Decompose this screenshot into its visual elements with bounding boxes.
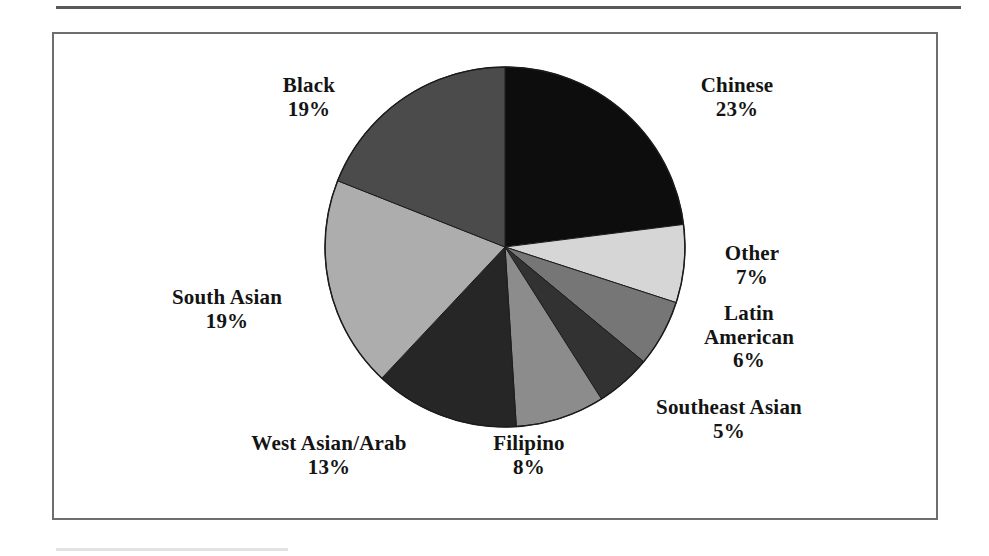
slice-name-latin-american-line2: American: [674, 326, 824, 350]
slice-percent-southeast-asian: 5%: [619, 420, 839, 444]
slice-percent-black: 19%: [239, 98, 379, 122]
scan-artifact: [56, 548, 288, 551]
pie-chart: Chinese 23% Other 7% Latin American 6% S…: [54, 34, 940, 522]
slice-name-black: Black: [283, 73, 335, 97]
slice-label-southeast-asian: Southeast Asian 5%: [619, 396, 839, 443]
slice-name-other: Other: [725, 241, 780, 265]
slice-name-latin-american-line1: Latin: [724, 301, 774, 325]
slice-label-chinese: Chinese 23%: [662, 74, 812, 121]
slice-name-south-asian: South Asian: [172, 285, 282, 309]
pie-slice-chinese: [505, 67, 684, 247]
slice-label-black: Black 19%: [239, 74, 379, 121]
slice-name-southeast-asian: Southeast Asian: [656, 395, 802, 419]
slice-label-west-asian-arab: West Asian/Arab 13%: [209, 432, 449, 479]
slice-percent-filipino: 8%: [449, 456, 609, 480]
slice-percent-other: 7%: [692, 266, 812, 290]
slice-label-south-asian: South Asian 19%: [132, 286, 322, 333]
slice-name-chinese: Chinese: [701, 73, 774, 97]
slice-label-other: Other 7%: [692, 242, 812, 289]
slice-percent-south-asian: 19%: [132, 310, 322, 334]
figure-frame: Chinese 23% Other 7% Latin American 6% S…: [52, 32, 938, 520]
slice-percent-chinese: 23%: [662, 98, 812, 122]
page-canvas: Chinese 23% Other 7% Latin American 6% S…: [0, 0, 989, 556]
slice-label-filipino: Filipino 8%: [449, 432, 609, 479]
slice-name-west-asian-arab: West Asian/Arab: [251, 431, 406, 455]
slice-percent-west-asian-arab: 13%: [209, 456, 449, 480]
top-horizontal-rule: [56, 6, 961, 9]
slice-name-filipino: Filipino: [493, 431, 565, 455]
slice-label-latin-american: Latin American 6%: [674, 302, 824, 373]
slice-percent-latin-american: 6%: [674, 349, 824, 373]
